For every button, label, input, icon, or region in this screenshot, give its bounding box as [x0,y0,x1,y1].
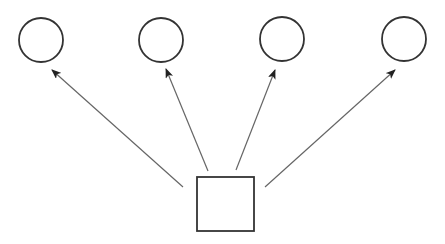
nodes-group [19,17,426,231]
circle-4-node [382,17,426,61]
circle-1-node [19,18,63,62]
square-source-node [197,177,254,231]
circle-3-node [260,17,304,61]
arrow-square-to-circle-2 [166,69,208,171]
arrow-square-to-circle-3 [236,70,275,170]
diagram-canvas [0,0,445,244]
arrow-square-to-circle-1 [52,70,183,187]
diagram-svg [0,0,445,244]
arrow-square-to-circle-4 [265,70,395,187]
edges-group [52,69,395,187]
circle-2-node [139,18,183,62]
